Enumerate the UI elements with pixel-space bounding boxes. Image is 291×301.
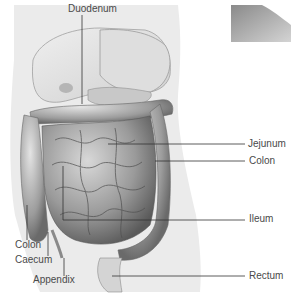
label-ileum: Ileum xyxy=(249,214,273,224)
label-caecum: Caecum xyxy=(15,255,52,265)
label-appendix: Appendix xyxy=(33,275,75,285)
label-colon-left: Colon xyxy=(15,240,41,250)
small-intestine xyxy=(42,116,156,244)
label-jejunum: Jejunum xyxy=(248,139,286,149)
label-colon-right: Colon xyxy=(249,156,275,166)
label-duodenum: Duodenum xyxy=(68,4,117,14)
gallbladder xyxy=(59,83,73,93)
digestive-system-diagram: Duodenum Jejunum Colon Ileum Colon Caecu… xyxy=(0,0,291,301)
label-rectum: Rectum xyxy=(249,271,283,281)
corner-gradient-shape xyxy=(231,5,291,42)
